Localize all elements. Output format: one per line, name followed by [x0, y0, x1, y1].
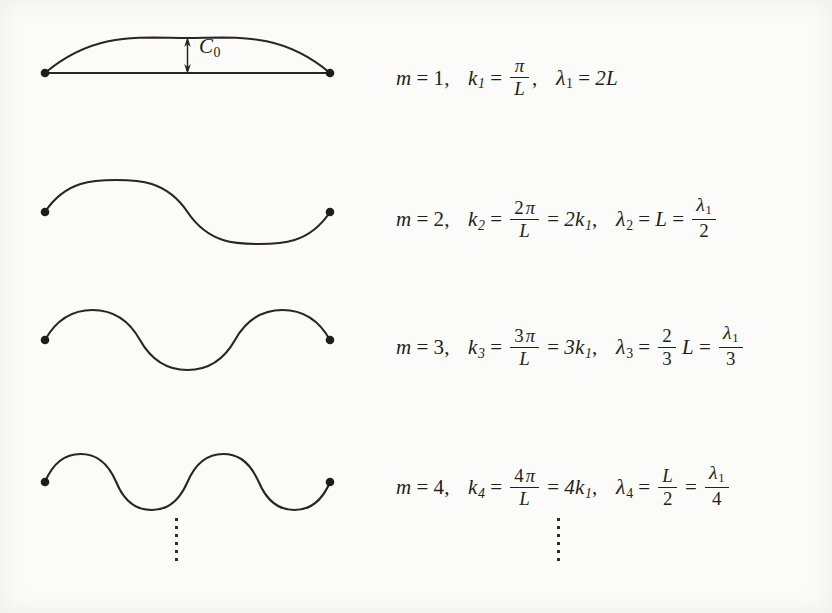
- m-symbol-2: m: [396, 207, 411, 231]
- endpoint-right: [326, 478, 335, 487]
- k-symbol-3: k: [468, 335, 478, 359]
- k-numerator-1: π: [510, 56, 529, 77]
- k-fraction-2: 2 πL: [510, 198, 539, 242]
- k-subscript-4: 4: [478, 486, 485, 501]
- m-symbol-4: m: [396, 475, 411, 499]
- lambda-fraction-4: λ14: [705, 462, 729, 509]
- lambda-pre-den-3: 3: [658, 347, 676, 369]
- lambda-symbol-2: λ: [616, 207, 626, 231]
- lambda-symbol-1: λ: [556, 66, 566, 90]
- lambda-frac-num-3: λ1: [719, 322, 743, 347]
- wave-shape-mode-2: [0, 150, 400, 280]
- ellipsis-dot: [557, 542, 560, 545]
- ellipsis-right: [557, 518, 560, 561]
- lambda-prefactor-3: 23: [658, 326, 676, 370]
- k-fraction-4: 4 πL: [510, 466, 539, 510]
- k-subscript-1: 1: [478, 76, 485, 91]
- lambda-fraction-2: λ12: [692, 194, 716, 241]
- endpoint-left: [41, 69, 50, 78]
- lambda-frac-den-4: 4: [705, 487, 729, 509]
- ellipsis-dot: [175, 550, 178, 553]
- k-fraction-1: πL: [510, 56, 529, 100]
- k-denominator-1: L: [510, 77, 529, 99]
- k-alt-2: 2k: [564, 207, 584, 231]
- endpoint-right: [326, 208, 335, 217]
- lambda-subscript-1: 1: [566, 76, 573, 91]
- figure-canvas: C0 m=1, k1=πL, λ1=2L m=2, k2=2 πL=2k1, λ…: [0, 0, 832, 613]
- k-denominator-4: L: [510, 487, 539, 509]
- ellipsis-dot: [557, 558, 560, 561]
- lambda-fraction-3: λ13: [719, 322, 743, 369]
- formula-mode-2: m=2, k2=2 πL=2k1, λ2=L=λ12: [396, 194, 719, 241]
- k-denominator-3: L: [510, 347, 539, 369]
- endpoint-right: [326, 69, 335, 78]
- m-symbol-1: m: [396, 66, 411, 90]
- lambda-frac-den-2: 2: [692, 219, 716, 241]
- m-symbol-3: m: [396, 335, 411, 359]
- ellipsis-dot: [557, 534, 560, 537]
- k-symbol-4: k: [468, 475, 478, 499]
- endpoint-left: [41, 336, 50, 345]
- endpoint-left: [41, 208, 50, 217]
- mode-row-3: m=3, k3=3 πL=3k1, λ3=23L=λ13: [0, 280, 832, 410]
- wave-shape-mode-3: [0, 280, 400, 410]
- k-symbol-2: k: [468, 207, 478, 231]
- m-value-4: 4: [433, 475, 444, 499]
- lambda-symbol-3: λ: [616, 335, 626, 359]
- k-alt-4: 4k: [564, 475, 584, 499]
- lambda-subscript-3: 3: [626, 346, 633, 361]
- m-value-3: 3: [433, 335, 444, 359]
- endpoint-left: [41, 478, 50, 487]
- wave-shape-mode-4: [0, 410, 400, 540]
- endpoint-right: [326, 336, 335, 345]
- formula-mode-4: m=4, k4=4 πL=4k1, λ4=L2=λ14: [396, 462, 732, 509]
- ellipsis-dot: [175, 542, 178, 545]
- lambda-symbol-4: λ: [616, 475, 626, 499]
- lambda-subscript-4: 4: [626, 486, 633, 501]
- amplitude-label: C0: [199, 34, 220, 61]
- lambda-pre-num-3: 2: [658, 326, 676, 347]
- ellipsis-dot: [175, 534, 178, 537]
- ellipsis-dot: [557, 526, 560, 529]
- mode-curve-4: [45, 454, 330, 510]
- ellipsis-dot: [175, 558, 178, 561]
- k-symbol-1: k: [468, 66, 478, 90]
- ellipsis-dot: [557, 550, 560, 553]
- formula-mode-3: m=3, k3=3 πL=3k1, λ3=23L=λ13: [396, 322, 746, 369]
- ellipsis-left: [175, 518, 178, 561]
- lambda-pre-den-4: 2: [658, 487, 677, 509]
- amplitude-subscript: 0: [214, 45, 221, 60]
- lambda-prefactor-4: L2: [658, 466, 677, 510]
- ellipsis-dot: [557, 518, 560, 521]
- k-numerator-4: 4 π: [510, 466, 539, 487]
- lambda-frac-num-2: λ1: [692, 194, 716, 219]
- lambda-subscript-2: 2: [626, 218, 633, 233]
- lambda-frac-num-4: λ1: [705, 462, 729, 487]
- mode-row-1: C0 m=1, k1=πL, λ1=2L: [0, 0, 832, 150]
- k-numerator-3: 3 π: [510, 326, 539, 347]
- k-denominator-2: L: [510, 219, 539, 241]
- k-numerator-2: 2 π: [510, 198, 539, 219]
- formula-mode-1: m=1, k1=πL, λ1=2L: [396, 56, 618, 100]
- k-subscript-3: 3: [478, 346, 485, 361]
- amplitude-arrow: [184, 37, 191, 74]
- k-alt-3: 3k: [564, 335, 584, 359]
- lambda-pre-tail-3: L: [682, 335, 694, 359]
- lambda-value-2: L: [655, 207, 667, 231]
- mode-row-2: m=2, k2=2 πL=2k1, λ2=L=λ12: [0, 150, 832, 280]
- mode-curve-2: [45, 180, 330, 244]
- mode-row-4: m=4, k4=4 πL=4k1, λ4=L2=λ14: [0, 410, 832, 540]
- ellipsis-dot: [175, 518, 178, 521]
- wave-shape-mode-1: [0, 0, 400, 150]
- ellipsis-dot: [175, 526, 178, 529]
- amplitude-symbol: C: [199, 34, 213, 58]
- k-fraction-3: 3 πL: [510, 326, 539, 370]
- k-subscript-2: 2: [478, 218, 485, 233]
- mode-curve-3: [45, 310, 330, 370]
- m-value-1: 1: [433, 66, 444, 90]
- lambda-frac-den-3: 3: [719, 347, 743, 369]
- lambda-pre-num-4: L: [658, 466, 677, 487]
- m-value-2: 2: [433, 207, 444, 231]
- lambda-value-1: 2L: [595, 66, 618, 90]
